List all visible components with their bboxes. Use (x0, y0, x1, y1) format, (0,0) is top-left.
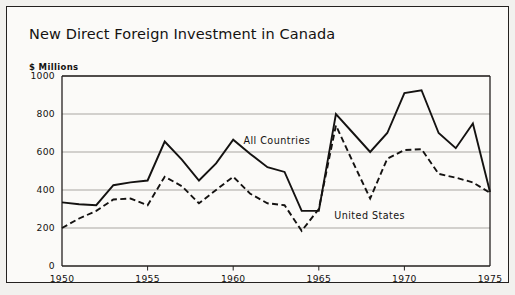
y-tick-label: 800 (37, 108, 55, 119)
y-tick-label: 400 (37, 184, 55, 195)
plot-area: 0200400600800100019501955196019651970197… (0, 0, 515, 295)
x-tick-label: 1970 (392, 273, 417, 284)
x-tick-label: 1965 (307, 273, 332, 284)
y-tick-label: 200 (37, 222, 55, 233)
x-tick-label: 1950 (50, 273, 75, 284)
series-annotation: United States (334, 210, 405, 221)
figure-container: New Direct Foreign Investment in Canada … (0, 0, 515, 295)
series-line-all-countries (62, 90, 490, 211)
x-tick-label: 1960 (221, 273, 246, 284)
series-annotation: All Countries (243, 135, 310, 146)
y-tick-label: 600 (37, 146, 55, 157)
y-tick-label: 1000 (30, 70, 55, 81)
x-tick-label: 1975 (478, 273, 503, 284)
x-tick-label: 1955 (135, 273, 160, 284)
line-chart-svg: 0200400600800100019501955196019651970197… (0, 0, 515, 295)
y-tick-label: 0 (49, 260, 55, 271)
